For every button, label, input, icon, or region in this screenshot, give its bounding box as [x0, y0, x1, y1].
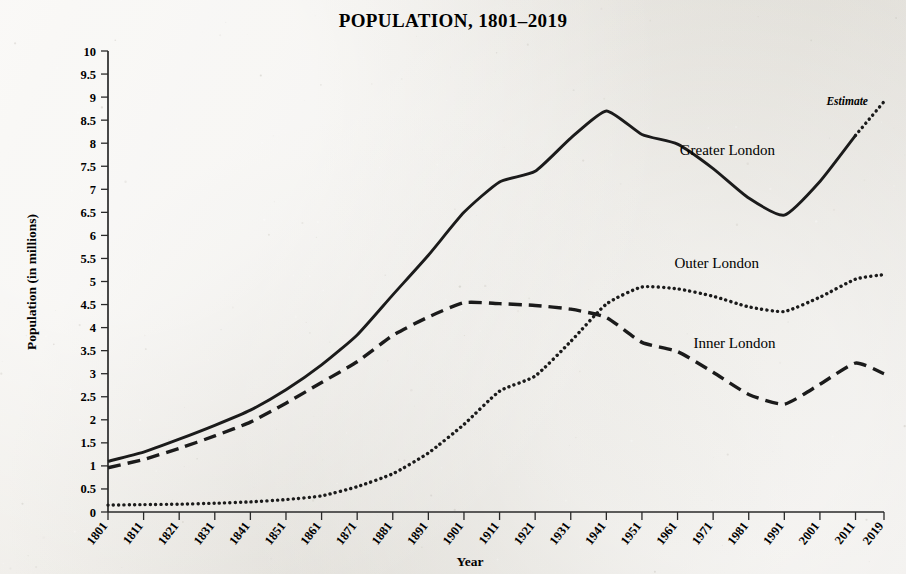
x-tick-label: 1921	[511, 519, 537, 547]
y-tick-label: 10	[84, 45, 97, 59]
x-axis-ticks: 1801181118211831184118511861187118811891…	[84, 512, 886, 548]
y-tick-label: 9.5	[80, 68, 96, 82]
x-tick-label: 1901	[440, 519, 466, 547]
annotation-estimate: Estimate	[825, 95, 868, 107]
y-tick-label: 2	[90, 413, 96, 427]
series-labels: Greater LondonInner LondonOuter London	[674, 142, 776, 352]
y-tick-label: 7.5	[80, 160, 96, 174]
x-tick-label: 1931	[547, 519, 573, 547]
x-axis-title: Year	[457, 554, 484, 569]
y-tick-label: 1.5	[80, 436, 96, 450]
y-tick-label: 9	[90, 91, 96, 105]
y-tick-label: 7	[90, 183, 96, 197]
annotation-layer: Estimate	[825, 95, 868, 107]
x-tick-label: 1831	[191, 519, 217, 547]
y-tick-label: 8	[90, 137, 96, 151]
y-tick-label: 2.5	[80, 390, 96, 404]
x-tick-label: 1851	[262, 519, 288, 547]
x-tick-label: 1881	[369, 519, 395, 547]
y-tick-label: 6	[90, 229, 96, 243]
x-tick-label: 1801	[84, 519, 110, 547]
y-tick-label: 4	[90, 321, 97, 335]
x-tick-label: 1891	[404, 519, 430, 547]
y-tick-label: 3.5	[80, 344, 96, 358]
y-tick-label: 0	[90, 506, 96, 520]
x-tick-label: 1981	[725, 519, 751, 547]
x-tick-label: 1821	[155, 519, 181, 547]
y-tick-label: 6.5	[80, 206, 96, 220]
population-chart: POPULATION, 1801–2019 Population (in mil…	[0, 0, 906, 574]
x-tick-label: 1811	[120, 519, 146, 547]
y-axis-ticks: 00.511.522.533.544.555.566.577.588.599.5…	[80, 45, 108, 520]
x-tick-label: 1961	[653, 519, 679, 547]
series-label-greater-london: Greater London	[680, 142, 776, 158]
series-label-outer-london: Outer London	[674, 255, 759, 271]
x-tick-label: 1871	[333, 519, 359, 547]
series-layer	[108, 102, 884, 505]
x-tick-label: 1991	[760, 519, 786, 547]
y-tick-label: 4.5	[80, 298, 96, 312]
y-tick-label: 0.5	[80, 482, 96, 496]
x-tick-label: 2011	[832, 519, 858, 547]
x-tick-label: 1911	[476, 519, 502, 547]
y-tick-label: 5.5	[80, 252, 96, 266]
series-line-inner-london	[108, 302, 884, 467]
y-tick-label: 1	[90, 459, 96, 473]
x-tick-label: 1861	[298, 519, 324, 547]
x-tick-label: 1971	[689, 519, 715, 547]
series-label-inner-london: Inner London	[693, 335, 776, 351]
series-line-greater-london	[108, 111, 856, 461]
chart-title: POPULATION, 1801–2019	[339, 10, 568, 31]
x-tick-label: 2001	[796, 519, 822, 547]
y-tick-label: 5	[90, 275, 96, 289]
y-tick-label: 3	[90, 367, 96, 381]
x-tick-label: 1951	[618, 519, 644, 547]
y-tick-label: 8.5	[80, 114, 96, 128]
x-tick-label: 1841	[226, 519, 252, 547]
y-axis-title: Population (in millions)	[24, 214, 39, 350]
chart-svg: POPULATION, 1801–2019 Population (in mil…	[0, 0, 906, 574]
paper-speckle	[0, 0, 906, 573]
x-tick-label: 1941	[582, 519, 608, 547]
series-line-outer-london	[108, 275, 884, 505]
x-tick-label: 2019	[860, 519, 886, 547]
